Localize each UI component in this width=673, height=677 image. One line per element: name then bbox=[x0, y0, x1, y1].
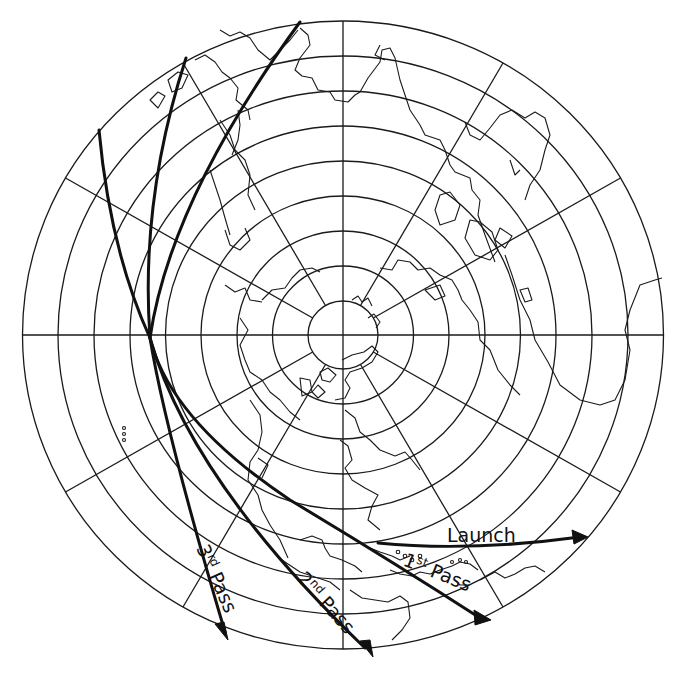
launch-arrowhead bbox=[572, 530, 588, 544]
pass1-track bbox=[150, 22, 480, 618]
pass2-label: 2ndPass bbox=[293, 567, 360, 638]
polar-orbit-map: Launch 1stPass 2ndPass 3rdPass bbox=[0, 0, 673, 677]
pass1-label: 1stPass bbox=[401, 548, 475, 595]
pass3-arrowhead bbox=[215, 622, 228, 640]
track-labels: Launch 1stPass 2ndPass 3rdPass bbox=[192, 524, 515, 638]
pass1-arrowhead bbox=[474, 610, 491, 625]
launch-label: Launch bbox=[447, 524, 516, 546]
pass2-track bbox=[148, 58, 365, 648]
meridians bbox=[23, 21, 664, 649]
